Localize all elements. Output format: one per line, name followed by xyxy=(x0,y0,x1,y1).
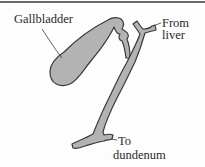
gallbladder-leader-line xyxy=(42,29,62,58)
gallbladder-shape xyxy=(50,18,130,86)
label-to-duodenum-line2: dundenum xyxy=(113,150,166,161)
label-from-liver-line2: liver xyxy=(162,30,185,41)
label-gallbladder: Gallbladder xyxy=(14,14,73,25)
diagram-frame: Gallbladder From liver To dundenum xyxy=(0,0,205,167)
to-duodenum-leader-line xyxy=(111,139,117,140)
label-to-duodenum-line1: To xyxy=(118,136,131,147)
from-liver-leader-line xyxy=(153,23,161,26)
